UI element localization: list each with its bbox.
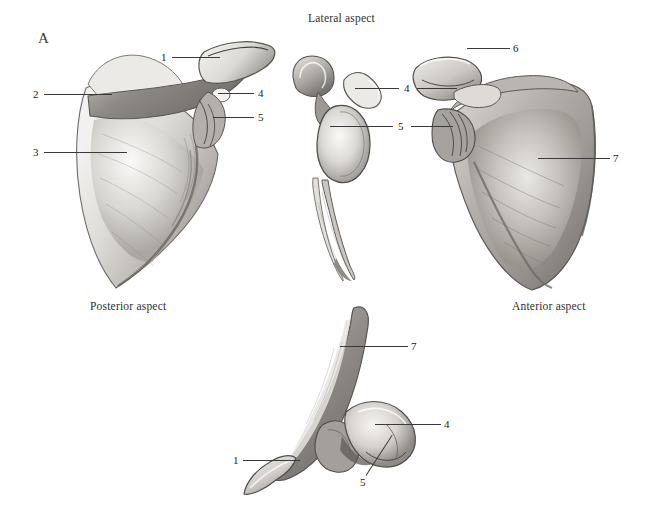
leader-line-s7 <box>340 346 408 347</box>
figure-superior-scapula <box>246 302 466 502</box>
label-5-lateral: 5 <box>398 121 404 132</box>
label-4-superior: 4 <box>444 419 450 430</box>
leader-line-a4 <box>417 88 457 89</box>
coracoid-process-lateral <box>344 73 382 109</box>
label-7-anterior: 7 <box>613 153 619 164</box>
caption-anterior-aspect: Anterior aspect <box>512 300 586 312</box>
label-1-superior: 1 <box>233 455 239 466</box>
label-5-posterior: 5 <box>258 112 264 123</box>
label-1-posterior: 1 <box>161 52 167 63</box>
leader-line-a6 <box>467 48 510 49</box>
leader-line-p3 <box>44 152 127 153</box>
label-5-superior: 5 <box>360 477 366 488</box>
caption-posterior-aspect: Posterior aspect <box>90 300 166 312</box>
leader-line-a7 <box>538 158 610 159</box>
leader-line-l4 <box>355 88 399 89</box>
leader-line-p1 <box>172 57 220 58</box>
glenoid-cavity <box>317 105 370 182</box>
leader-line-p4 <box>218 93 254 94</box>
leader-line-l5 <box>330 126 393 127</box>
label-6-anterior: 6 <box>513 43 519 54</box>
figure-anterior-scapula <box>412 36 612 302</box>
label-2-posterior: 2 <box>33 89 39 100</box>
caption-lateral-aspect: Lateral aspect <box>308 12 375 24</box>
label-4-posterior: 4 <box>258 88 264 99</box>
leader-line-a5 <box>411 126 453 127</box>
leader-line-s4 <box>375 424 441 425</box>
label-7-superior: 7 <box>411 341 417 352</box>
panel-letter-a: A <box>38 30 49 47</box>
leader-line-s1 <box>243 460 300 461</box>
label-3-posterior: 3 <box>33 147 39 158</box>
label-4-lateral: 4 <box>404 83 410 94</box>
anatomy-plate: A <box>0 0 669 524</box>
figure-posterior-scapula <box>58 38 278 298</box>
figure-lateral-scapula <box>288 52 398 282</box>
leader-line-p5 <box>213 117 254 118</box>
leader-line-p2 <box>44 94 112 95</box>
